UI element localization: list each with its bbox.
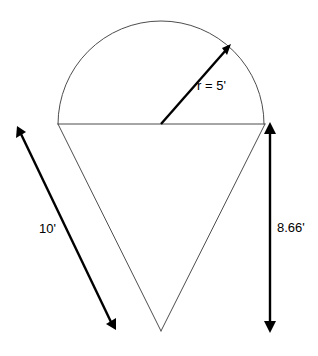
slant-label: 10'	[39, 221, 56, 236]
slant-dimension-line	[21, 134, 111, 322]
height-arrowhead-bottom	[264, 321, 276, 333]
radius-label: r = 5'	[197, 78, 226, 93]
radius-label-equals: =	[201, 78, 216, 93]
height-arrowhead-top	[264, 122, 276, 134]
figure-svg: Ice cream cone composite solid: hemisphe…	[0, 0, 318, 356]
geometry-diagram: Ice cream cone composite solid: hemisphe…	[0, 0, 318, 356]
hemisphere-arc	[58, 21, 264, 124]
radius-label-value: 5'	[216, 78, 226, 93]
height-label: 8.66'	[277, 220, 305, 235]
cone-left-slant	[58, 124, 161, 331]
cone-right-slant	[161, 124, 265, 331]
